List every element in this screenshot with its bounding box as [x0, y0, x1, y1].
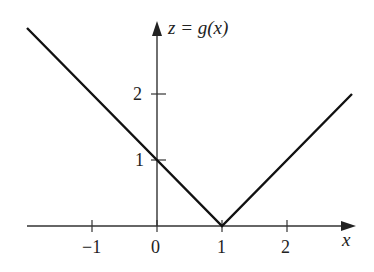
x-tick-label: 1	[217, 237, 226, 257]
x-axis	[27, 220, 356, 232]
z-axis-arrow-icon	[152, 21, 162, 36]
x-tick-label: 2	[281, 237, 290, 257]
z-axis	[151, 21, 166, 226]
x-tick-label: −1	[82, 237, 101, 257]
chart: z = g(x) x −1 0 1 2 1 2	[0, 0, 374, 272]
graph-line	[27, 28, 352, 226]
z-axis-label: z = g(x)	[167, 17, 228, 39]
z-tick-label: 1	[135, 150, 144, 170]
z-tick-label: 2	[133, 84, 142, 104]
x-axis-label: x	[341, 229, 351, 250]
x-tick-label: 0	[151, 237, 160, 257]
